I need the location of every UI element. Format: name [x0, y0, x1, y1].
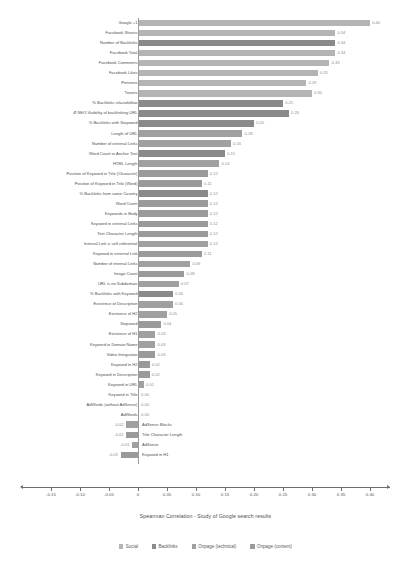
bar-row: Facebook Likes0.31 [0, 68, 411, 78]
bar-value-label: 0.20 [256, 118, 264, 128]
legend-item: Onpage (content) [250, 544, 292, 549]
bar-value-label: 0.40 [372, 18, 380, 28]
bar-value-label: 0.31 [320, 68, 328, 78]
x-axis-tick [196, 487, 197, 491]
bar-category-label: Number of external Links [92, 139, 137, 149]
bar-category-label: Existence of Description [94, 299, 138, 309]
bar-row: Title Character Length-0.02 [0, 430, 411, 440]
bar-row: AdSense-0.01 [0, 440, 411, 450]
bar [138, 100, 283, 107]
x-axis-tick-label: 0.20 [250, 492, 259, 497]
bar-row: Keyword in Domain Name0.03 [0, 340, 411, 350]
x-axis-tick-label: -0.15 [46, 492, 56, 497]
bar-row: Existence of Description0.06 [0, 299, 411, 309]
bar-row: % Backlinks from same Country0.12 [0, 189, 411, 199]
bar [138, 221, 208, 228]
x-axis-tick [283, 487, 284, 491]
bar-category-label: Video Integration [107, 350, 138, 360]
bar [138, 130, 242, 137]
bar-value-label: 0.04 [163, 319, 171, 329]
bar-row: Word Count in Anchor Text0.15 [0, 149, 411, 159]
bar-row: Number of internal Links0.09 [0, 259, 411, 269]
bar-value-label: 0.12 [210, 239, 218, 249]
bar-value-label: 0.00 [141, 390, 149, 400]
bar-category-label: Keyword in H1 [142, 450, 169, 460]
bar [138, 200, 208, 207]
bar-category-label: Facebook Likes [109, 68, 138, 78]
x-axis-tick-label: 0.30 [308, 492, 317, 497]
bar-category-label: Keyword in external Links [91, 219, 138, 229]
x-axis-tick [167, 487, 168, 491]
legend-label: Onpage (content) [257, 544, 292, 549]
bar-category-label: Internal Link is self-referential [84, 239, 138, 249]
x-axis-tick-label: 0.40 [366, 492, 375, 497]
bar-row: Number of Backlinks0.34 [0, 38, 411, 48]
x-axis-tick-label: 0.15 [221, 492, 230, 497]
bar-category-label: % Backlinks rel=nofollow [92, 98, 137, 108]
chart-legend: SocialBacklinksOnpage (technical)Onpage … [0, 544, 411, 549]
bar-row: AdWords0.00 [0, 410, 411, 420]
bar-category-label: Keyword in H2 [111, 360, 138, 370]
legend-swatch-icon [192, 544, 196, 549]
bar-value-label: 0.00 [141, 400, 149, 410]
bar [138, 210, 208, 217]
x-axis-tick [80, 487, 81, 491]
bar-value-label: 0.12 [210, 189, 218, 199]
bar-category-label: Existence of H2 [109, 309, 138, 319]
bar [138, 291, 173, 298]
bar-row: Keyword in URL0.01 [0, 380, 411, 390]
bar-value-label: 0.06 [175, 289, 183, 299]
bar-value-label: -0.02 [114, 420, 123, 430]
bar [138, 341, 155, 348]
legend-item: Onpage (technical) [192, 544, 237, 549]
legend-item: Social [119, 544, 138, 549]
bar [138, 301, 173, 308]
bar-row: Stopword0.04 [0, 319, 411, 329]
x-axis-tick [225, 487, 226, 491]
bar-category-label: Keyword in Description [96, 370, 138, 380]
bar-value-label: 0.02 [152, 360, 160, 370]
legend-label: Social [126, 544, 138, 549]
bar-row: Facebook Comments0.33 [0, 58, 411, 68]
bar-row: Keyword in external Link0.11 [0, 249, 411, 259]
legend-item: Backlinks [152, 544, 178, 549]
bar-value-label: 0.03 [158, 329, 166, 339]
bar [138, 321, 161, 328]
bar-category-label: Google +1 [119, 18, 138, 28]
bar-category-label: % Backlinks with Stopword [89, 118, 138, 128]
bar-value-label: 0.03 [158, 350, 166, 360]
bar-category-label: Image Count [114, 269, 137, 279]
x-axis-left-arrow [20, 485, 23, 489]
bar [138, 140, 231, 147]
bar-value-label: 0.12 [210, 209, 218, 219]
x-axis-right-arrow [387, 485, 390, 489]
bar-row: Position of Keyword in Title (Character)… [0, 169, 411, 179]
x-axis-tick [370, 487, 371, 491]
bar-value-label: -0.03 [109, 450, 118, 460]
legend-swatch-icon [152, 544, 156, 549]
bar-category-label: Word Count [116, 199, 138, 209]
bar-category-label: Ø SEO-Visibility of backlinking URL [73, 108, 137, 118]
bar [138, 90, 312, 97]
bar [138, 40, 335, 47]
spearman-correlation-bar-chart: Google +10.40Facebook Shares0.34Number o… [0, 0, 411, 585]
bar [138, 50, 335, 57]
bar [138, 60, 329, 67]
bar-category-label: Stopword [120, 319, 137, 329]
bar-category-label: Keyword in Domain Name [90, 340, 137, 350]
bar [138, 231, 208, 238]
bar-value-label: 0.34 [337, 48, 345, 58]
bar-row: AdWords (without AdSense)0.00 [0, 400, 411, 410]
bar-row: Text Character Length0.12 [0, 229, 411, 239]
legend-label: Onpage (technical) [198, 544, 236, 549]
chart-caption: Spearman Correlation - Study of Google s… [0, 513, 411, 519]
x-axis-tick-label: 0.35 [337, 492, 346, 497]
bar-row: Ø SEO-Visibility of backlinking URL0.26 [0, 108, 411, 118]
x-axis-tick-label: 0 [137, 492, 139, 497]
bar-row: Existence of H10.03 [0, 329, 411, 339]
bar-value-label: 0.08 [187, 269, 195, 279]
bar [138, 381, 144, 388]
bar-value-label: 0.01 [146, 380, 154, 390]
bar-row: % Backlinks with Keyword0.06 [0, 289, 411, 299]
bar-category-label: AdSense [142, 440, 159, 450]
